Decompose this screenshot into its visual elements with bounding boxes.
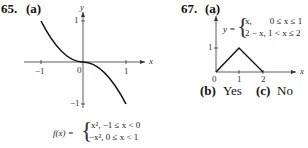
y-axis-label: y <box>213 8 216 16</box>
y-arrow-icon <box>81 12 85 17</box>
formula-lhs: f(x) = <box>53 128 74 138</box>
formula-lhs: y = <box>223 24 235 34</box>
formula-case: 2 − x, 1 < x ≤ 2 <box>245 28 301 38</box>
y-axis-label: y <box>80 2 84 12</box>
formula-case: x, 0 ≤ x ≤ 1 <box>245 16 302 26</box>
answer-b-label: (b) <box>200 83 216 99</box>
x-axis-label: x <box>300 66 304 76</box>
formula-case: −x², 0 ≤ x < 1 <box>89 132 138 142</box>
x-arrow-icon <box>140 60 145 64</box>
y-tick-label: 1 <box>208 42 213 52</box>
x-axis-label: x <box>149 56 153 66</box>
x-tick-label: −1 <box>35 66 45 76</box>
answer-c-text: No <box>277 83 293 99</box>
answer-b-text: Yes <box>223 83 242 99</box>
formula-case: x², −1 ≤ x < 0 <box>91 120 140 130</box>
y-tick-label: −1 <box>70 98 80 108</box>
x-tick-label: 0 <box>77 65 82 75</box>
graph-65-axes <box>24 12 145 108</box>
x-arrow-icon <box>291 70 296 74</box>
graph-65-curve <box>41 21 126 104</box>
problem-67-number: 67. <box>181 1 197 17</box>
x-tick-label: 1 <box>124 66 129 76</box>
graph-67-curve <box>216 48 263 72</box>
y-tick-label: 1 <box>74 15 79 25</box>
answer-c-label: (c) <box>256 83 270 99</box>
